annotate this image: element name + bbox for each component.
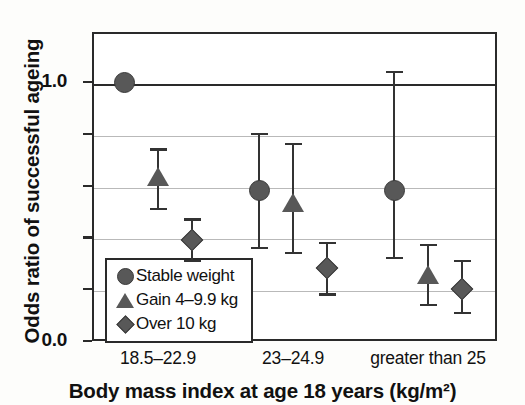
error-bar-cap: [184, 218, 201, 220]
error-bar-cap: [420, 304, 437, 306]
triangle-marker: [282, 193, 304, 212]
error-bar-cap: [319, 242, 336, 244]
triangle-marker: [147, 167, 169, 186]
circle-marker: [114, 72, 135, 93]
diamond-marker: [316, 257, 339, 280]
error-bar-cap: [454, 312, 471, 314]
error-bar-cap: [251, 247, 268, 249]
y-axis-tick: [83, 133, 92, 135]
diamond-marker: [181, 229, 204, 252]
error-bar-cap: [150, 148, 167, 150]
error-bar-cap: [454, 260, 471, 262]
data-point: [442, 0, 482, 405]
circle-marker: [249, 180, 270, 201]
data-point: [307, 0, 347, 405]
y-axis-tick: [83, 185, 92, 187]
y-axis-tick-label: 0.0: [7, 329, 67, 351]
diamond-marker: [451, 278, 474, 301]
y-axis-tick: [83, 236, 92, 238]
y-axis-tick: [83, 340, 92, 342]
error-bar-line: [393, 72, 395, 258]
error-bar-cap: [285, 143, 302, 145]
y-axis-tick: [83, 81, 92, 83]
y-axis-tick: [83, 288, 92, 290]
circle-marker: [384, 180, 405, 201]
triangle-marker: [417, 265, 439, 284]
error-bar-cap: [285, 252, 302, 254]
data-point: [172, 0, 212, 405]
error-bar-cap: [319, 293, 336, 295]
error-bar-cap: [184, 260, 201, 262]
error-bar-cap: [386, 71, 403, 73]
y-axis-tick-label: 1.0: [7, 70, 67, 92]
error-bar-cap: [420, 244, 437, 246]
error-bar-cap: [386, 257, 403, 259]
figure: Odds ratio of successful ageing 0.01.0 1…: [0, 0, 525, 405]
error-bar-cap: [150, 208, 167, 210]
error-bar-cap: [251, 133, 268, 135]
